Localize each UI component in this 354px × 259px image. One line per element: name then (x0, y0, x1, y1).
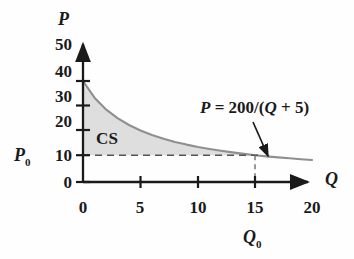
equation-rhs-numerator: 200/( (229, 98, 265, 117)
x-tick-label-10: 10 (183, 199, 213, 216)
x-tick-label-0: 0 (68, 199, 98, 216)
consumer-surplus-figure: P Q 50 40 30 20 10 0 P0 0 5 10 15 20 Q0 … (0, 0, 354, 259)
equation-rhs-variable: Q (264, 98, 276, 117)
x-tick-label-5: 5 (125, 199, 155, 216)
equation-pointer-arrow (253, 122, 268, 156)
price-level-label: P0 (14, 146, 31, 168)
y-axis-label: P (58, 10, 69, 28)
y-tick-label-40: 40 (46, 63, 72, 80)
quantity-level-subscript: 0 (256, 238, 262, 250)
demand-equation-label: P = 200/(Q + 5) (200, 99, 309, 116)
equation-lhs: P (200, 98, 210, 117)
equation-rhs-tail: + 5) (277, 98, 309, 117)
x-axis-label: Q (325, 170, 338, 188)
y-tick-label-0: 0 (46, 174, 72, 191)
y-tick-label-50: 50 (46, 36, 72, 53)
quantity-level-letter: Q (243, 227, 256, 247)
y-tick-label-20: 20 (46, 113, 72, 130)
x-tick-label-20: 20 (297, 199, 327, 216)
x-tick-label-15: 15 (240, 199, 270, 216)
price-level-subscript: 0 (25, 156, 31, 168)
equation-equals: = (210, 98, 228, 117)
y-tick-label-10: 10 (46, 147, 72, 164)
y-tick-label-30: 30 (46, 88, 72, 105)
consumer-surplus-label: CS (96, 130, 118, 147)
quantity-level-label: Q0 (243, 228, 262, 250)
price-level-letter: P (14, 145, 25, 165)
